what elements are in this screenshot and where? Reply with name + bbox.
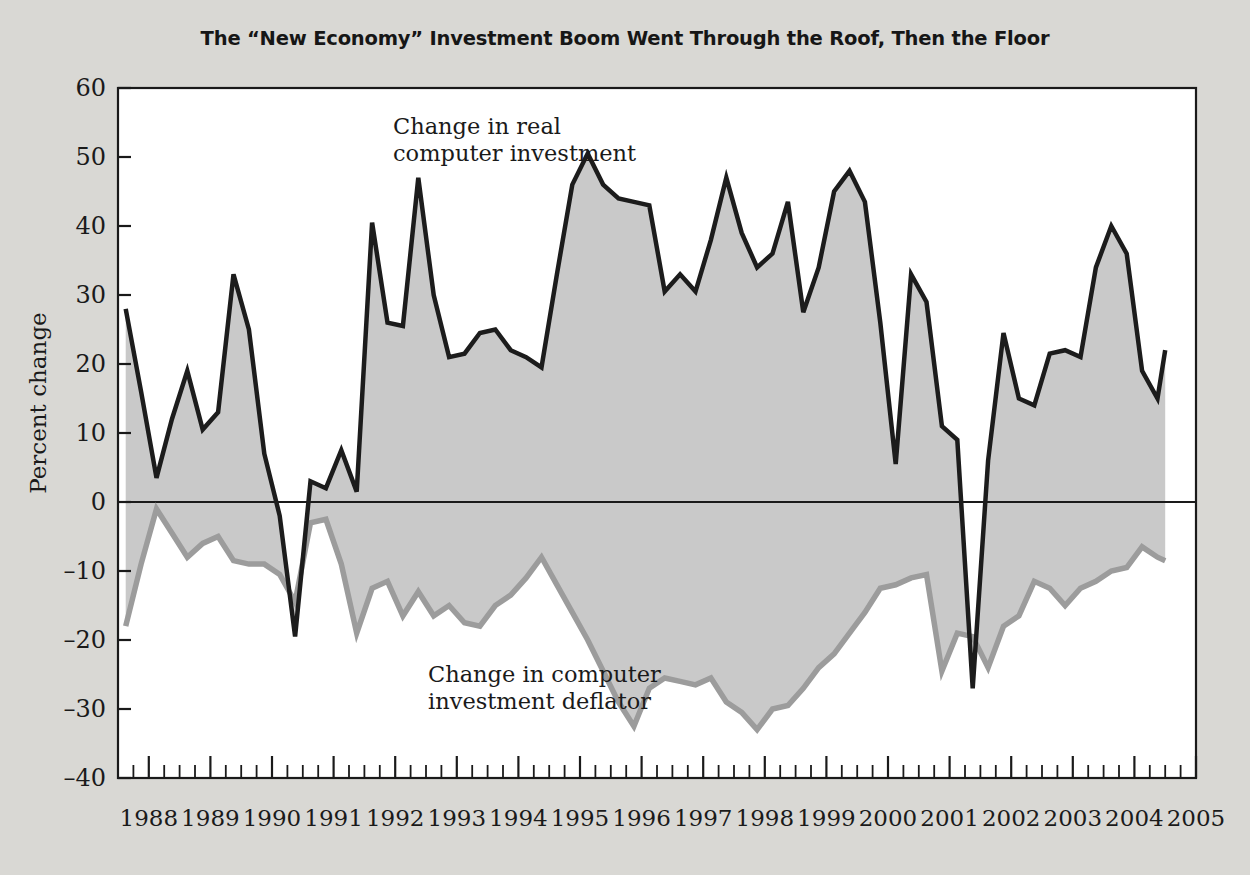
x-tick-label: 1990: [237, 807, 307, 830]
x-tick-label: 2002: [976, 807, 1046, 830]
x-tick-label: 1997: [668, 807, 738, 830]
x-tick-label: 1989: [175, 807, 245, 830]
x-tick-label: 2001: [915, 807, 985, 830]
y-tick-label: 20: [40, 352, 106, 376]
x-tick-label: 1993: [422, 807, 492, 830]
y-tick-label: 40: [40, 214, 106, 238]
x-tick-label: 1992: [360, 807, 430, 830]
x-tick-label: 2000: [853, 807, 923, 830]
y-tick-label: 50: [40, 145, 106, 169]
x-tick-label: 1996: [607, 807, 677, 830]
x-tick-label: 2004: [1099, 807, 1169, 830]
y-tick-label: –20: [40, 628, 106, 652]
x-tick-label: 2005: [1161, 807, 1231, 830]
y-tick-label: 30: [40, 283, 106, 307]
series-label-deflator: Change in computer investment deflator: [428, 661, 661, 714]
y-tick-label: 60: [40, 76, 106, 100]
x-tick-label: 1988: [114, 807, 184, 830]
x-tick-label: 1991: [299, 807, 369, 830]
x-tick-label: 2003: [1038, 807, 1108, 830]
y-tick-label: –30: [40, 697, 106, 721]
y-tick-label: –40: [40, 766, 106, 790]
y-tick-label: 10: [40, 421, 106, 445]
series-label-deflator-line1: Change in computer: [428, 661, 661, 688]
y-axis-label: Percent change: [25, 303, 51, 503]
y-tick-label: –10: [40, 559, 106, 583]
x-tick-label: 1994: [483, 807, 553, 830]
x-tick-label: 1999: [791, 807, 861, 830]
series-label-deflator-line2: investment deflator: [428, 688, 661, 715]
series-label-investment: Change in real computer investment: [393, 113, 636, 166]
series-label-investment-line2: computer investment: [393, 140, 636, 167]
x-tick-label: 1995: [545, 807, 615, 830]
series-label-investment-line1: Change in real: [393, 113, 636, 140]
figure: The “New Economy” Investment Boom Went T…: [0, 0, 1250, 875]
x-tick-label: 1998: [730, 807, 800, 830]
y-tick-label: 0: [40, 490, 106, 514]
